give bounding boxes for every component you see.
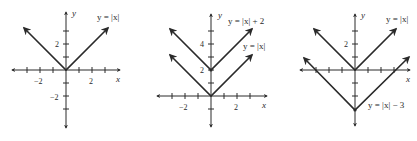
y-axis-label: y: [71, 8, 76, 18]
y-tick-label: 2: [55, 40, 59, 49]
graph-abs-x-minus-3: y x y = |x| y = |x| − 3 2: [300, 10, 410, 126]
graphs-figure: y x y = |x| −2 2 2 −2 y x: [0, 0, 417, 141]
x-tick-label: −2: [34, 77, 43, 86]
x-axis-label: x: [115, 74, 120, 84]
vertex-point: [209, 68, 212, 71]
x-tick-label: 2: [234, 103, 238, 112]
y-axis-label: y: [217, 10, 222, 20]
equation-label-base: y = |x|: [386, 14, 408, 24]
equation-label-base: y = |x|: [243, 41, 265, 51]
x-axis-label: x: [405, 74, 410, 84]
x-tick-label: 2: [89, 77, 93, 86]
equation-label-shifted: y = |x| + 2: [228, 16, 264, 26]
y-tick-label: 2: [200, 66, 204, 75]
y-tick-label: 2: [344, 40, 348, 49]
graph-abs-x: y x y = |x| −2 2 2 −2: [12, 8, 120, 128]
equation-label-shifted: y = |x| − 3: [368, 100, 405, 110]
y-axis-label: y: [360, 10, 365, 20]
equation-label: y = |x|: [97, 12, 119, 22]
vertex-point: [353, 108, 356, 111]
y-tick-label: −2: [50, 93, 59, 102]
y-tick-label: 4: [200, 40, 204, 49]
x-axis-label: x: [261, 100, 266, 110]
graph-abs-x-plus-2: y x y = |x| + 2 y = |x| −2 2 4 2: [157, 10, 267, 127]
x-tick-label: −2: [179, 103, 188, 112]
